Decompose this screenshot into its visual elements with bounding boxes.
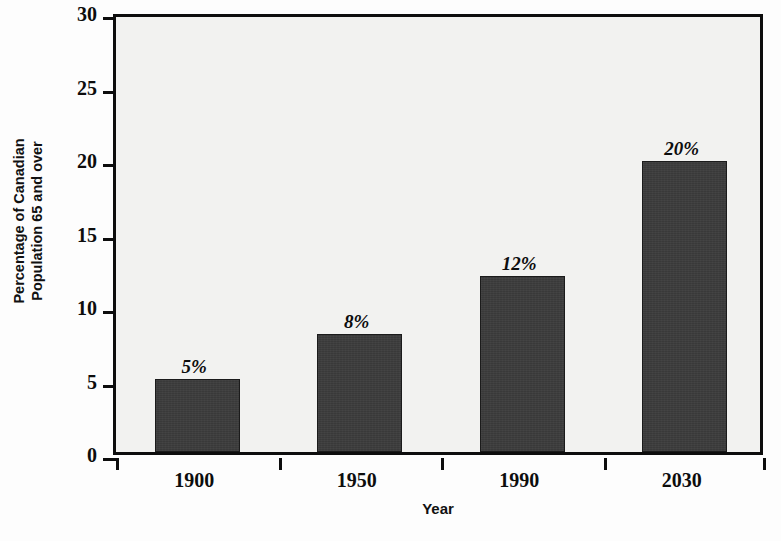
y-axis-title-line-2: Population 65 and over: [28, 138, 46, 303]
bar-texture: [481, 277, 564, 451]
y-axis-title: Percentage of Canadian Population 65 and…: [0, 0, 56, 441]
bar-value-label: 8%: [344, 311, 369, 333]
y-axis-tick: [103, 385, 116, 388]
x-axis-tick: [441, 458, 444, 470]
y-axis-tick: [103, 91, 116, 94]
y-axis-title-line-1: Percentage of Canadian: [10, 138, 28, 303]
bar-texture: [318, 335, 401, 451]
y-axis-tick: [103, 311, 116, 314]
bar: [317, 334, 402, 452]
x-axis-tick-label: 1990: [499, 469, 539, 492]
bar-value-label: 12%: [502, 253, 537, 275]
y-axis-tick: [103, 238, 116, 241]
y-axis-tick-label: 5: [87, 370, 97, 393]
plot-area: [113, 14, 763, 455]
y-axis-tick: [103, 164, 116, 167]
y-axis-tick-label: 30: [77, 3, 97, 26]
bar-value-label: 5%: [182, 356, 207, 378]
bar-value-label: 20%: [664, 138, 699, 160]
y-axis-tick: [103, 458, 116, 461]
bar: [642, 161, 727, 452]
y-axis-tick-label: 20: [77, 150, 97, 173]
x-axis-tick: [604, 458, 607, 470]
x-axis-tick-label: 1900: [174, 469, 214, 492]
bar-texture: [643, 162, 726, 451]
x-axis-tick-label: 1950: [337, 469, 377, 492]
y-axis-tick: [103, 17, 116, 20]
bar-texture: [156, 380, 239, 452]
x-axis-tick: [279, 458, 282, 470]
bar: [155, 379, 240, 453]
y-axis-tick-label: 25: [77, 76, 97, 99]
bar: [480, 276, 565, 452]
x-axis-tick: [116, 458, 119, 470]
x-axis-title: Year: [113, 500, 763, 517]
bar-chart-figure: Percentage of Canadian Population 65 and…: [0, 0, 781, 541]
x-axis-tick: [763, 458, 766, 470]
y-axis-tick-label: 10: [77, 297, 97, 320]
y-axis-tick-label: 15: [77, 223, 97, 246]
x-axis-tick-label: 2030: [662, 469, 702, 492]
y-axis-tick-label: 0: [87, 444, 97, 467]
